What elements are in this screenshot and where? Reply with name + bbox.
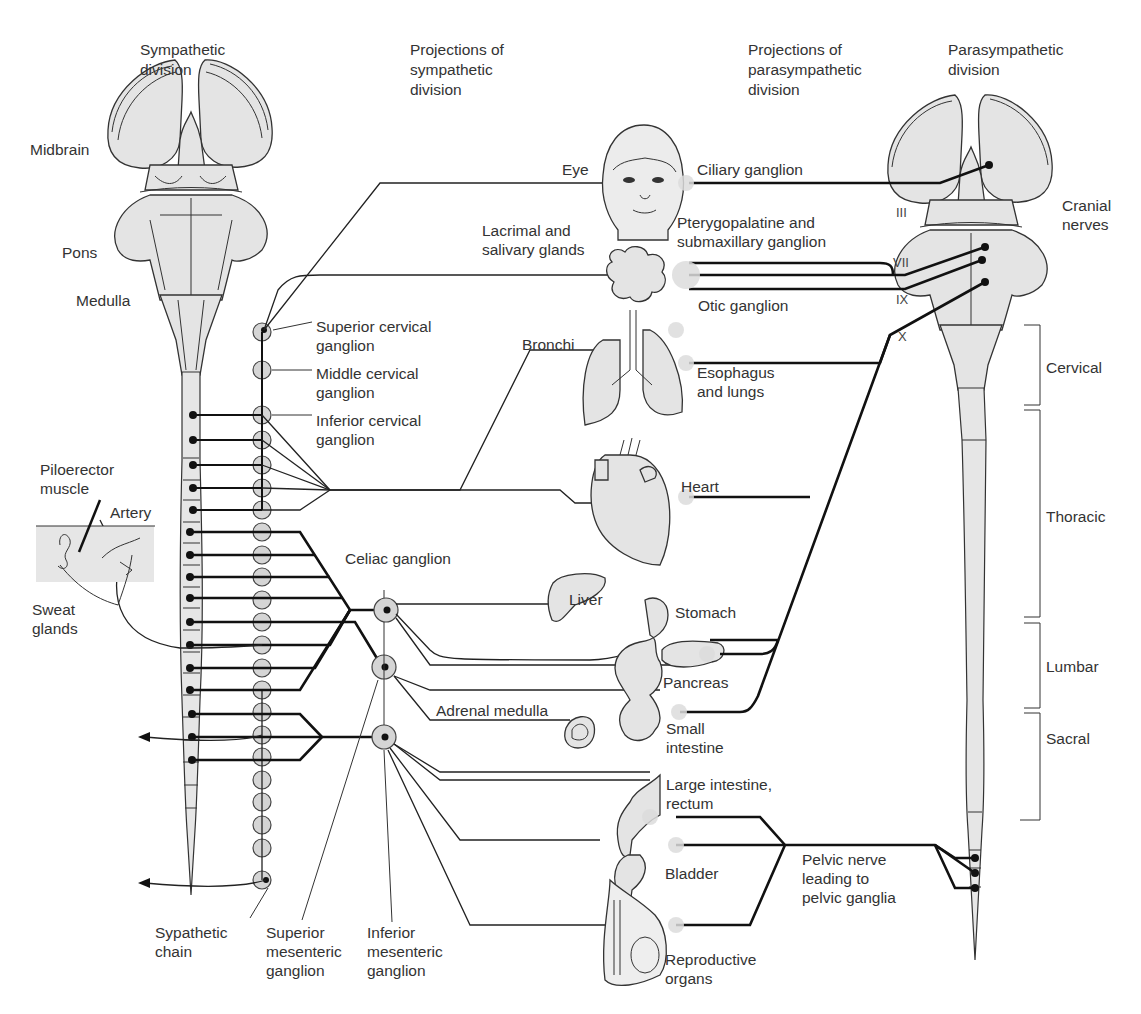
label-sacral-region: Sacral (1046, 729, 1090, 748)
header-projections-sympathetic: Projections of sympathetic division (410, 40, 504, 100)
label-bladder: Bladder (665, 864, 718, 883)
header-sympathetic-division: Sympathetic division (140, 40, 225, 80)
label-thoracic-region: Thoracic (1046, 507, 1105, 526)
sympathetic-preganglionic-fibers (186, 411, 385, 764)
label-heart: Heart (681, 477, 719, 496)
organ-reproductive (604, 880, 667, 985)
label-cranial-nerve-x: X (898, 327, 907, 346)
label-pelvic-nerve: Pelvic nerve leading to pelvic ganglia (802, 850, 896, 907)
left-spinal-cord (180, 372, 202, 895)
label-medulla: Medulla (76, 291, 130, 310)
label-sweat-glands: Sweat glands (32, 600, 78, 638)
parasympathetic-fibers (642, 161, 993, 933)
label-reproductive-organs: Reproductive organs (665, 950, 756, 988)
label-stomach: Stomach (675, 603, 736, 622)
organ-adrenal (565, 717, 595, 748)
label-sympathetic-chain: Sypathetic chain (155, 923, 227, 961)
label-otic-ganglion: Otic ganglion (698, 296, 788, 315)
label-eye: Eye (562, 160, 589, 179)
right-spinal-cord (958, 388, 986, 960)
label-pterygopalatine-ganglion: Pterygopalatine and submaxillary ganglio… (677, 213, 826, 251)
label-large-intestine-rectum: Large intestine, rectum (666, 775, 772, 813)
label-lumbar-region: Lumbar (1046, 657, 1099, 676)
label-cranial-nerve-vii: VII (893, 253, 909, 272)
label-lacrimal-salivary-glands: Lacrimal and salivary glands (482, 221, 585, 259)
right-brainstem (888, 95, 1052, 390)
left-brainstem (108, 60, 272, 375)
label-ciliary-ganglion: Ciliary ganglion (697, 160, 803, 179)
label-superior-cervical-ganglion: Superior cervical ganglion (316, 317, 431, 355)
organ-eye-face (602, 125, 683, 240)
label-liver: Liver (569, 590, 603, 609)
label-piloerector-muscle: Piloerector muscle (40, 460, 114, 498)
header-projections-parasympathetic: Projections of parasympathetic division (748, 40, 862, 100)
label-cranial-nerves: Cranial nerves (1062, 196, 1111, 234)
sympathetic-chain (253, 323, 271, 889)
label-inferior-cervical-ganglion: Inferior cervical ganglion (316, 411, 421, 449)
organ-stomach-intestine (615, 598, 668, 740)
organ-lacrimal-salivary (607, 247, 666, 302)
label-cervical-region: Cervical (1046, 358, 1102, 377)
label-cranial-nerve-iii: III (896, 203, 907, 222)
label-cranial-nerve-ix: IX (896, 290, 908, 309)
label-superior-mesenteric-ganglion: Superior mesenteric ganglion (266, 923, 342, 980)
spinal-region-brackets (1020, 325, 1040, 820)
label-pons: Pons (62, 243, 97, 262)
prevertebral-ganglia (372, 590, 398, 749)
label-inferior-mesenteric-ganglion: Inferior mesenteric ganglion (367, 923, 443, 980)
label-pancreas: Pancreas (663, 673, 728, 692)
label-esophagus-lungs: Esophagus and lungs (697, 363, 775, 401)
organ-heart (591, 438, 670, 565)
label-bronchi: Bronchi (522, 335, 575, 354)
label-middle-cervical-ganglion: Middle cervical ganglion (316, 364, 419, 402)
label-midbrain: Midbrain (30, 140, 89, 159)
label-artery: Artery (110, 503, 151, 522)
header-parasympathetic-division: Parasympathetic division (948, 40, 1063, 80)
label-small-intestine: Small intestine (666, 719, 724, 757)
label-celiac-ganglion: Celiac ganglion (345, 549, 451, 568)
organ-lungs (583, 310, 682, 425)
label-adrenal-medulla: Adrenal medulla (436, 701, 548, 720)
autonomic-nervous-system-diagram (0, 0, 1141, 1014)
